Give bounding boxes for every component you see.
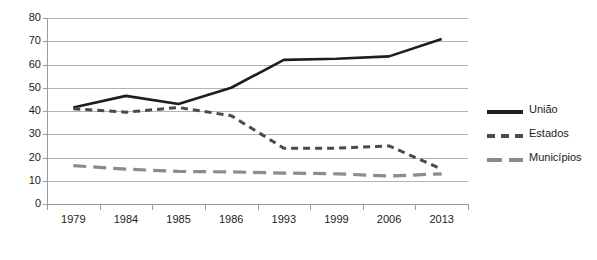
x-tick-mark xyxy=(258,205,259,210)
y-tick-mark xyxy=(43,204,48,205)
y-tick-mark xyxy=(43,158,48,159)
y-tick-label: 30 xyxy=(1,128,41,139)
x-tick-label: 2013 xyxy=(429,214,453,225)
series-line-estados xyxy=(73,108,441,170)
y-tick-mark xyxy=(43,181,48,182)
y-tick-mark xyxy=(43,65,48,66)
x-tick-mark xyxy=(363,205,364,210)
y-tick-label: 0 xyxy=(1,198,41,209)
long-dashed-line-swatch xyxy=(487,158,523,162)
legend-label-estados: Estados xyxy=(529,127,569,140)
x-tick-label: 1985 xyxy=(166,214,190,225)
y-tick-label: 40 xyxy=(1,105,41,116)
y-tick-label: 60 xyxy=(1,59,41,70)
y-tick-label: 10 xyxy=(1,175,41,186)
x-tick-label: 1986 xyxy=(219,214,243,225)
legend-item-estados[interactable]: Estados xyxy=(487,124,597,148)
y-tick-label: 20 xyxy=(1,152,41,163)
y-tick-mark xyxy=(43,111,48,112)
y-tick-label: 50 xyxy=(1,82,41,93)
x-tick-label: 2006 xyxy=(377,214,401,225)
x-tick-mark xyxy=(468,205,469,210)
x-tick-label: 1999 xyxy=(324,214,348,225)
y-tick-mark xyxy=(43,134,48,135)
x-tick-mark xyxy=(152,205,153,210)
x-tick-mark xyxy=(415,205,416,210)
y-tick-mark xyxy=(43,18,48,19)
y-tick-mark xyxy=(43,88,48,89)
chart-legend: União Estados Municípios xyxy=(487,100,597,172)
x-tick-mark xyxy=(47,205,48,210)
x-tick-label: 1984 xyxy=(114,214,138,225)
legend-label-municipios: Municípios xyxy=(529,151,582,164)
legend-item-municipios[interactable]: Municípios xyxy=(487,148,597,172)
series-line-uniao xyxy=(73,39,441,108)
solid-line-swatch xyxy=(487,110,523,114)
x-tick-label: 1993 xyxy=(272,214,296,225)
series-line-municipios xyxy=(73,166,441,176)
x-tick-mark xyxy=(100,205,101,210)
y-tick-label: 80 xyxy=(1,12,41,23)
x-tick-label: 1979 xyxy=(61,214,85,225)
line-chart: 01020304050607080 1979198419851986199319… xyxy=(0,0,597,260)
y-axis-labels: 01020304050607080 xyxy=(0,18,41,205)
x-tick-mark xyxy=(205,205,206,210)
legend-item-uniao[interactable]: União xyxy=(487,100,597,124)
series-lines xyxy=(47,18,468,204)
short-dashed-line-swatch xyxy=(487,134,523,138)
x-tick-mark xyxy=(310,205,311,210)
y-tick-mark xyxy=(43,41,48,42)
legend-label-uniao: União xyxy=(529,103,558,116)
y-tick-label: 70 xyxy=(1,35,41,46)
plot-area xyxy=(47,18,468,204)
